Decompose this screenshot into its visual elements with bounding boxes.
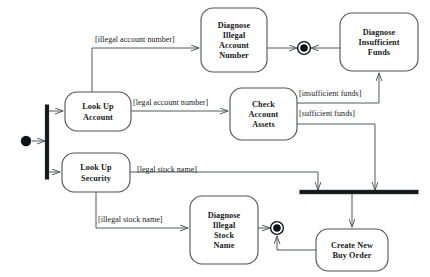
look-up-account-label-line: Account [83, 113, 113, 122]
look-up-security-label-line: Look Up [80, 163, 112, 172]
diagnose-insufficient-funds-label-line: Insufficient [358, 38, 399, 47]
activity-diagram-canvas: Look UpAccountLook UpSecurityDiagnoseIll… [0, 0, 430, 277]
guard-legal-stock-name: [legal stock name] [137, 165, 197, 174]
diagnose-illegal-stock-name-label-line: Name [214, 241, 235, 250]
diagnose-illegal-stock-name-label-line: Diagnose [208, 211, 241, 220]
final-bottom [271, 222, 284, 235]
diagnose-insufficient-funds-label-line: Funds [368, 48, 390, 57]
edge-security-to-join [130, 172, 318, 190]
guard-legal-account-number: [legal account number] [133, 98, 209, 107]
look-up-account-label-line: Look Up [82, 102, 114, 111]
create-new-buy-order-label-line: Create New [331, 241, 373, 250]
check-account-assets-label-line: Assets [252, 120, 274, 129]
guard-illegal-account-number: [illegal account number] [95, 35, 175, 44]
look-up-security-label-line: Security [81, 174, 112, 183]
create-new-buy-order[interactable]: Create NewBuy Order [316, 229, 388, 271]
create-new-buy-order-shape [316, 229, 388, 271]
diagnose-illegal-account-number-label-line: Account [219, 41, 249, 50]
look-up-security-shape [62, 153, 130, 192]
edge-create-order-to-final [277, 236, 316, 250]
create-new-buy-order-label-line: Buy Order [333, 251, 372, 260]
diagnose-illegal-stock-name-label-line: Illegal [213, 221, 236, 230]
guard-sufficient-funds: [sufficient funds] [299, 109, 355, 118]
guard-illegal-stock-name: [illegal stock name] [98, 215, 163, 224]
diagnose-illegal-account-number-label-line: Illegal [223, 31, 246, 40]
join-bar [300, 190, 418, 193]
check-account-assets-label-line: Check [252, 100, 275, 109]
look-up-security[interactable]: Look UpSecurity [62, 153, 130, 192]
check-account-assets[interactable]: CheckAccountAssets [230, 88, 297, 140]
diagnose-insufficient-funds-label-line: Diagnose [363, 28, 396, 37]
look-up-account-shape [65, 92, 131, 131]
diagnose-illegal-stock-name-label-line: Stock [214, 231, 234, 240]
diagnose-insufficient-funds[interactable]: DiagnoseInsufficientFunds [340, 13, 418, 71]
node-layer: Look UpAccountLook UpSecurityDiagnoseIll… [21, 8, 418, 271]
diagnose-illegal-account-number-label-line: Number [219, 51, 249, 60]
diagnose-illegal-stock-name-shape [190, 196, 258, 264]
edge-check-assets-insufficient [297, 73, 379, 103]
fork-main [45, 105, 48, 179]
diagnose-illegal-account-number-label-line: Diagnose [218, 21, 251, 30]
final-top-core [300, 44, 308, 52]
guard-insufficient-funds: [insufficient funds] [299, 89, 362, 98]
activity-diagram-svg: Look UpAccountLook UpSecurityDiagnoseIll… [0, 0, 430, 277]
final-bottom-core [273, 224, 281, 232]
final-top [298, 42, 311, 55]
diagnose-illegal-account-number-shape [201, 8, 267, 72]
initial-node-icon [21, 136, 31, 146]
diagnose-illegal-stock-name[interactable]: DiagnoseIllegalStockName [190, 196, 258, 264]
edge-account-to-diagnose-illegal-number [92, 48, 199, 92]
look-up-account[interactable]: Look UpAccount [65, 92, 131, 131]
diagnose-illegal-account-number[interactable]: DiagnoseIllegalAccountNumber [201, 8, 267, 72]
edge-check-assets-sufficient [297, 124, 375, 190]
check-account-assets-label-line: Account [249, 110, 279, 119]
